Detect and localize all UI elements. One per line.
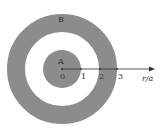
tick-label-3: 3: [118, 72, 123, 81]
tick-label-2: 2: [99, 72, 104, 81]
tick-mark-0: [61, 68, 63, 70]
tick-mark-2: [99, 68, 101, 70]
region-label-b: B: [58, 15, 64, 24]
axis-label: r/a: [142, 74, 154, 83]
tick-label-1: 1: [81, 72, 86, 81]
concentric-regions-diagram: 0 1 2 3 r/a A B: [0, 0, 161, 137]
tick-mark-1: [80, 68, 82, 70]
region-label-a: A: [57, 57, 64, 66]
axis-arrowhead-icon: [149, 67, 155, 72]
tick-mark-3: [116, 68, 118, 70]
tick-label-0: 0: [60, 72, 65, 81]
